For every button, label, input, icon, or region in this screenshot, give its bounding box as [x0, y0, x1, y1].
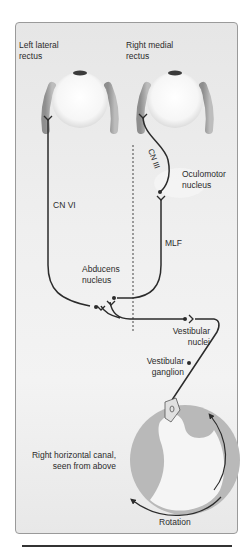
left-lateral-rectus-label: Left lateral rectus [19, 40, 59, 62]
left-eye [45, 71, 115, 131]
cn-iii-label: CN III [146, 148, 161, 170]
cn-vi-label: CN VI [53, 200, 76, 211]
horizontal-canal-label: Right horizontal canal, seen from above [18, 450, 116, 472]
rotation-label: Rotation [159, 517, 191, 528]
vestibular-ganglion-label: Vestibular ganglion [132, 356, 184, 378]
mlf-pathway [117, 200, 161, 298]
right-eye [140, 71, 210, 131]
right-medial-rectus-label: Right medial rectus [126, 40, 173, 62]
horizontal-canal [130, 398, 240, 515]
oculomotor-nucleus-label: Oculomotor nucleus [182, 169, 226, 191]
abducens-nucleus-label: Abducens nucleus [82, 264, 120, 286]
mlf-label: MLF [165, 238, 182, 249]
vestibular-ganglion-dot [187, 361, 191, 365]
vestibular-nuclei-label: Vestibular nuclei [160, 326, 210, 348]
bottom-rule [22, 545, 232, 547]
